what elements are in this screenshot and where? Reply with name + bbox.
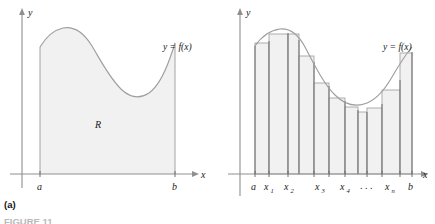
curve-label-b: y = f(x) <box>382 42 412 53</box>
riemann-rect <box>255 43 269 174</box>
curve-label-a: y = f(x) <box>162 42 192 53</box>
svg-text:3: 3 <box>321 187 326 194</box>
y-axis-arrowhead-b <box>237 8 243 15</box>
riemann-rect <box>299 56 314 174</box>
svg-text:x: x <box>339 181 345 192</box>
tick-label-x3: x 3 <box>314 181 326 194</box>
riemann-rect <box>314 83 329 174</box>
tick-label-xn: x n <box>384 181 396 194</box>
figure-container: y x y = f(x) a b R <box>0 0 435 224</box>
riemann-rect <box>269 34 288 174</box>
region-fill-a <box>40 28 175 174</box>
svg-text:x: x <box>283 181 289 192</box>
tick-label-b: b <box>172 181 177 192</box>
svg-text:x: x <box>263 181 269 192</box>
panel-a: y x y = f(x) a b R <box>0 0 218 224</box>
panel-a-tag: (a) <box>4 199 16 210</box>
riemann-rect <box>400 53 412 174</box>
riemann-rect <box>288 34 299 174</box>
x-axis-label-b: x <box>422 169 428 180</box>
x-axis-label-a: x <box>200 169 206 180</box>
tick-label-x4: x 4 <box>339 181 351 194</box>
y-axis-arrowhead-a <box>19 8 25 15</box>
tick-label-ellipsis: . . . <box>360 180 373 191</box>
riemann-rectangles <box>255 34 412 174</box>
tick-label-x1: x 1 <box>263 181 274 194</box>
y-axis-label-b: y <box>245 7 251 18</box>
riemann-rect <box>382 90 400 174</box>
riemann-rect <box>345 107 358 174</box>
tick-label-x2: x 2 <box>283 181 295 194</box>
riemann-rect <box>367 108 382 174</box>
svg-text:x: x <box>384 181 390 192</box>
tick-label-a: a <box>251 181 256 192</box>
svg-text:1: 1 <box>271 187 274 194</box>
svg-text:2: 2 <box>291 187 295 194</box>
region-label-R: R <box>94 119 101 130</box>
svg-text:x: x <box>314 181 320 192</box>
y-axis-label-a: y <box>27 7 33 18</box>
tick-label-b: b <box>408 181 413 192</box>
panel-b: y x y = f(x) <box>218 0 435 224</box>
panel-b-canvas: y x y = f(x) <box>218 0 435 224</box>
riemann-rect <box>329 98 345 174</box>
svg-text:n: n <box>392 187 396 194</box>
figure-caption: FIGURE 11 <box>4 216 53 224</box>
tick-label-a: a <box>37 181 42 192</box>
x-axis-arrowhead-a <box>192 171 199 177</box>
svg-text:4: 4 <box>347 187 351 194</box>
panel-a-canvas: y x y = f(x) a b R <box>0 0 218 224</box>
riemann-rect <box>358 112 367 174</box>
